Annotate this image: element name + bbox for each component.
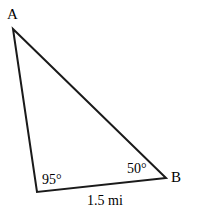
angle-label-b: 50°: [127, 162, 147, 176]
vertex-label-b: B: [171, 170, 181, 185]
vertex-label-a: A: [7, 7, 18, 22]
angle-label-c: 95°: [42, 173, 62, 187]
side-length-label: 1.5 mi: [87, 194, 123, 208]
triangle-figure: A B 95° 50° 1.5 mi: [0, 0, 198, 219]
triangle-shape: [0, 0, 198, 219]
